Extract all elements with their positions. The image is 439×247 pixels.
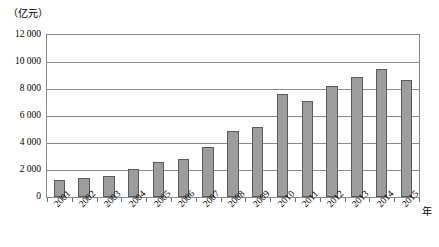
bar-slot	[394, 35, 419, 197]
x-axis-tick-mark	[295, 198, 296, 202]
bar-slot	[146, 35, 171, 197]
x-axis-tick-mark	[146, 198, 147, 202]
y-axis-tick-label: 0	[0, 192, 41, 202]
y-axis-tick-label: 6 000	[0, 111, 41, 121]
bar-slot	[245, 35, 270, 197]
bar-slot	[369, 35, 394, 197]
bar	[326, 86, 337, 197]
x-axis-tick-mark	[419, 198, 420, 202]
x-axis-tick-mark	[171, 198, 172, 202]
x-axis-tick-mark	[320, 198, 321, 202]
y-axis-tick-label: 12 000	[0, 30, 41, 40]
x-axis-tick-mark	[196, 198, 197, 202]
x-axis-tick-mark	[97, 198, 98, 202]
bar-slot	[295, 35, 320, 197]
x-axis-tick-mark	[221, 198, 222, 202]
x-axis-tick-mark	[394, 198, 395, 202]
y-axis-tick-label: 2 000	[0, 165, 41, 175]
bar	[351, 77, 362, 197]
bar-slot	[320, 35, 345, 197]
bar-slot	[345, 35, 370, 197]
y-axis-tick-label: 4 000	[0, 138, 41, 148]
bar	[252, 127, 263, 197]
bar-slot	[97, 35, 122, 197]
bar-slot	[171, 35, 196, 197]
bar-slot	[196, 35, 221, 197]
bar-slot	[221, 35, 246, 197]
x-axis-tick-mark	[245, 198, 246, 202]
y-axis-unit-label: （亿元）	[8, 8, 48, 20]
bar	[227, 131, 238, 197]
bar-slot	[270, 35, 295, 197]
bar	[302, 101, 313, 197]
x-axis-tick-mark	[121, 198, 122, 202]
x-axis-unit-label: 年	[422, 206, 432, 217]
bar	[376, 69, 387, 197]
bar-slot	[72, 35, 97, 197]
bar-slot	[47, 35, 72, 197]
x-axis-tick-mark	[369, 198, 370, 202]
bar-slot	[121, 35, 146, 197]
x-axis-tick-mark	[72, 198, 73, 202]
bar	[277, 94, 288, 197]
bar	[401, 80, 412, 197]
y-axis-tick-label: 8 000	[0, 84, 41, 94]
bar-chart-figure: （亿元） 02 0004 0006 0008 00010 00012 000 2…	[0, 0, 439, 247]
bars-group	[47, 35, 419, 197]
x-axis-tick-mark	[345, 198, 346, 202]
x-axis-tick-mark	[270, 198, 271, 202]
x-axis-tick-mark	[47, 198, 48, 202]
y-axis-tick-label: 10 000	[0, 57, 41, 67]
